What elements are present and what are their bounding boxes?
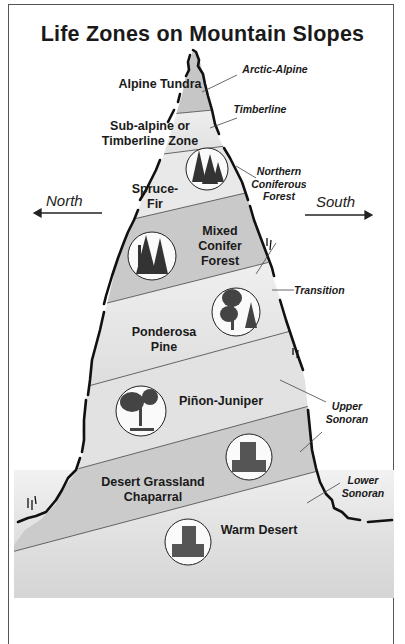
side-label-timberline: Timberline	[225, 103, 295, 116]
spruce-trees-icon	[186, 148, 228, 190]
side-label-lower-sonoran: Lower Sonoran	[341, 474, 385, 499]
side-label-transition: Transition	[294, 284, 354, 297]
zone-label-warm-desert: Warm Desert	[214, 523, 304, 538]
zone-label-ponderosa-pine: Ponderosa Pine	[117, 325, 211, 355]
zone-label-pinon-juniper: Piñon-Juniper	[168, 394, 274, 409]
north-label: North	[46, 192, 83, 209]
zone-label-spruce-fir: Spruce- Fir	[125, 182, 185, 212]
rock-grassland-icon	[226, 434, 272, 480]
south-label: South	[316, 193, 355, 210]
conifer-trees-icon	[128, 232, 176, 280]
alpine-tundra-zone	[0, 0, 405, 130]
ponderosa-tree-icon	[212, 288, 260, 336]
zone-label-subalpine: Sub-alpine or Timberline Zone	[85, 119, 215, 149]
page-title: Life Zones on Mountain Slopes	[0, 22, 405, 47]
side-label-upper-sonoran: Upper Sonoran	[325, 400, 369, 425]
desert-rock-icon	[165, 519, 211, 565]
zone-label-alpine-tundra: Alpine Tundra	[105, 77, 215, 92]
arrow-left-icon	[34, 209, 41, 217]
zone-label-desert-grassland: Desert Grassland Chaparral	[90, 475, 216, 505]
arrow-right-icon	[365, 211, 372, 219]
side-label-northern-coniferous: Northern Coniferous Forest	[250, 165, 308, 203]
pinon-tree-icon	[116, 386, 166, 436]
side-label-arctic-alpine: Arctic-Alpine	[235, 63, 315, 76]
zone-label-mixed-conifer: Mixed Conifer Forest	[188, 224, 252, 269]
